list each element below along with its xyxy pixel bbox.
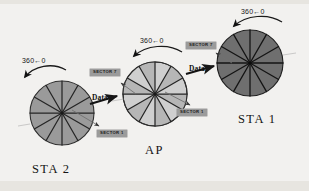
rotation-arc-sta2 bbox=[25, 66, 66, 77]
rotation-label-ap: 360←0 bbox=[140, 37, 164, 44]
node-caption-sta1: STA 1 bbox=[238, 112, 276, 127]
node-caption-ap: AP bbox=[145, 143, 164, 158]
rotation-label-sta2: 360←0 bbox=[22, 57, 46, 64]
rotation-arc-ap bbox=[134, 46, 182, 56]
rotation-arc-sta1 bbox=[234, 16, 282, 26]
node-caption-sta2: STA 2 bbox=[32, 162, 70, 177]
data-label-ap-sta1: Data bbox=[189, 64, 205, 73]
node-sta2[interactable] bbox=[30, 81, 94, 145]
node-sta1[interactable] bbox=[217, 30, 283, 96]
sector-badge-ap-sector7[interactable]: SECTOR 7 bbox=[90, 69, 120, 76]
sector-badge-sta1-sector7[interactable]: SECTOR 7 bbox=[186, 42, 216, 49]
sector-badge-ap-sector1[interactable]: SECTOR 1 bbox=[177, 109, 207, 116]
node-ap[interactable] bbox=[123, 62, 187, 126]
sector-badge-sta2-sector1[interactable]: SECTOR 1 bbox=[97, 130, 127, 137]
rotation-label-sta1: 360←0 bbox=[241, 8, 265, 15]
diagram-canvas: 360←0 360←0 360←0 SECTOR 1 SECTOR 7 SECT… bbox=[0, 0, 309, 191]
data-label-sta2-ap: Data bbox=[92, 93, 108, 102]
